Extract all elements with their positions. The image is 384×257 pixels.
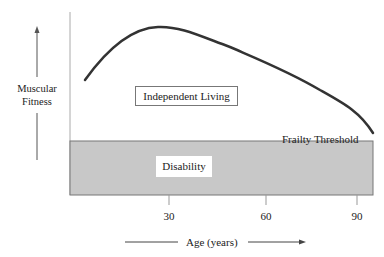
chart-canvas (0, 0, 384, 257)
x-arrow-head-icon (299, 240, 306, 245)
y-axis-label-line2: Fitness (5, 95, 69, 108)
disability-region (70, 141, 373, 195)
independent-living-label: Independent Living (135, 86, 238, 106)
y-axis-label-line1: Muscular (5, 82, 69, 95)
fitness-curve (85, 27, 373, 133)
y-axis-label: Muscular Fitness (5, 82, 69, 108)
y-arrow-head-icon (35, 26, 40, 33)
x-tick-label-60: 60 (251, 210, 281, 223)
x-axis-label: Age (years) (186, 236, 238, 249)
disability-label: Disability (156, 156, 212, 177)
x-tick-label-30: 30 (154, 210, 184, 223)
frailty-threshold-label: Frailty Threshold (282, 133, 358, 146)
x-tick-label-90: 90 (342, 210, 372, 223)
